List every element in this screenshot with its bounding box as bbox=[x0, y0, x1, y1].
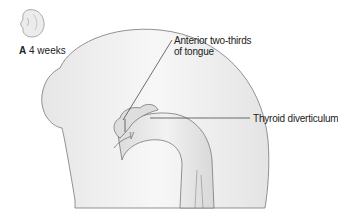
embryo-thumbnail-icon bbox=[21, 10, 44, 37]
stage-age: 4 weeks bbox=[29, 45, 66, 56]
panel-letter: A bbox=[19, 45, 26, 56]
label-thyroid-diverticulum: Thyroid diverticulum bbox=[253, 113, 338, 124]
stage-label: A 4 weeks bbox=[19, 45, 66, 56]
label-anterior-tongue: Anterior two-thirds of tongue bbox=[174, 35, 251, 57]
